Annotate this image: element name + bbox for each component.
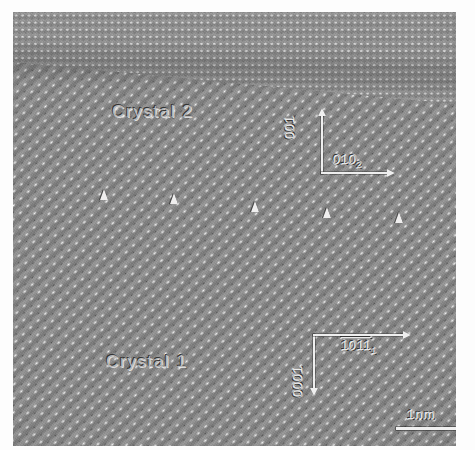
crystal1-horizontal-axis-label: 10111 xyxy=(341,338,376,356)
crystal2-vertical-axis-arrowhead xyxy=(318,108,326,116)
crystal1-vertical-axis-line xyxy=(313,334,315,390)
crystal2-horizontal-axis-arrowhead xyxy=(387,169,395,177)
boundary-marker-2 xyxy=(170,193,178,204)
micrograph-page: Crystal 2 Crystal 1 001 0102 0001 xyxy=(0,0,475,450)
boundary-marker-4 xyxy=(323,207,331,218)
crystal1-vertical-axis-label: 0001 xyxy=(290,366,305,397)
crystal1-label: Crystal 1 xyxy=(106,352,187,372)
boundary-marker-1 xyxy=(100,189,108,200)
hrtem-micrograph-image: Crystal 2 Crystal 1 001 0102 0001 xyxy=(13,12,456,446)
boundary-marker-3 xyxy=(251,201,259,212)
crystal1-horizontal-axis-subscript: 1 xyxy=(371,346,376,356)
crystal2-vertical-axis-line xyxy=(321,116,323,174)
crystal2-horizontal-axis-label: 0102 xyxy=(333,152,362,170)
crystal2-horizontal-axis-line xyxy=(321,172,389,174)
scale-bar-line xyxy=(396,427,456,430)
crystal1-horizontal-axis-line xyxy=(313,334,405,336)
crystal2-vertical-axis-text: 001 xyxy=(282,116,297,140)
crystal1-horizontal-axis-text: 1011 xyxy=(341,338,371,353)
crystal2-horizontal-axis-subscript: 2 xyxy=(357,160,362,170)
crystal2-label: Crystal 2 xyxy=(112,102,193,122)
crystal2-vertical-axis-label: 001 xyxy=(282,116,297,140)
crystal2-axis-indicator: 001 0102 xyxy=(295,108,415,200)
crystal1-horizontal-axis-arrowhead xyxy=(403,331,411,339)
scale-bar-label: 1nm xyxy=(407,407,436,422)
crystal1-vertical-axis-arrowhead xyxy=(310,388,318,396)
crystal1-vertical-axis-text: 0001 xyxy=(290,366,305,397)
crystal1-axis-indicator: 0001 10111 xyxy=(305,330,427,416)
crystal2-horizontal-axis-text: 010 xyxy=(333,152,357,167)
boundary-marker-5 xyxy=(395,212,403,223)
